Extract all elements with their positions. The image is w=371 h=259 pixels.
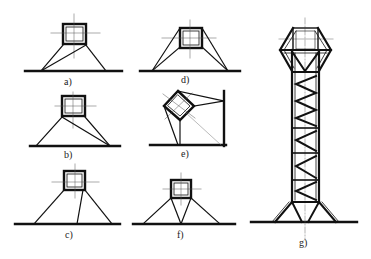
panel-e: e) <box>150 91 226 160</box>
label-c: c) <box>65 229 73 241</box>
label-f: f) <box>177 229 184 241</box>
label-e: e) <box>181 148 189 160</box>
support-structures-diagram: a) d) b) <box>0 0 371 259</box>
panel-f: f) <box>133 173 235 241</box>
label-g: g) <box>299 237 307 249</box>
panel-b: b) <box>30 92 120 161</box>
label-a: a) <box>64 76 72 88</box>
panel-d: d) <box>140 20 240 86</box>
panel-a: a) <box>25 14 122 88</box>
label-d: d) <box>181 74 189 86</box>
label-b: b) <box>64 149 72 161</box>
panel-c: c) <box>15 164 120 241</box>
panel-g: g) <box>251 18 357 249</box>
